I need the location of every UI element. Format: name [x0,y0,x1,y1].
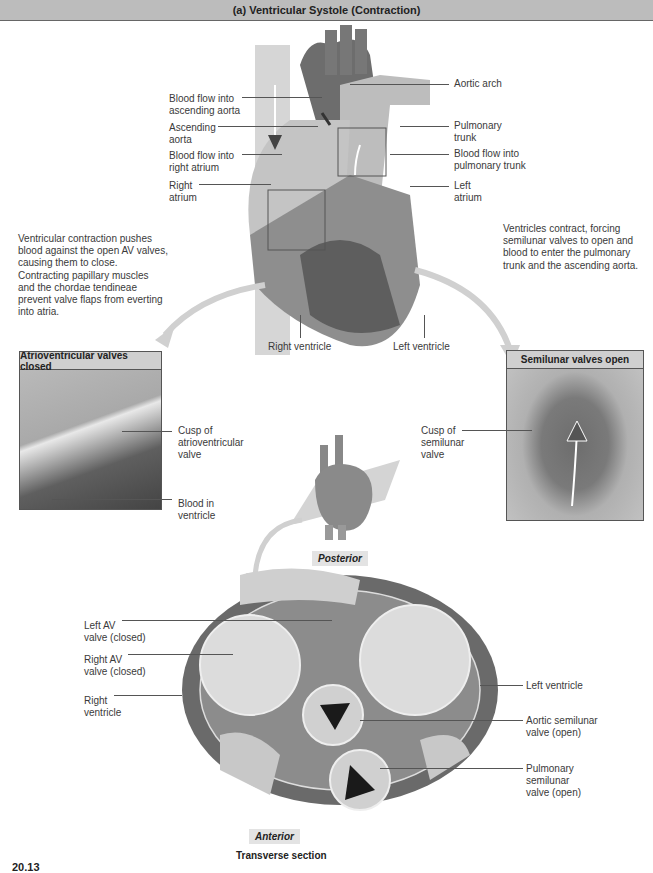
posterior-tag: Posterior [312,551,368,566]
leader-line [480,685,523,686]
leader-line [410,186,449,187]
leader-line [462,430,532,431]
label-aortic-arch: Aortic arch [454,78,502,90]
anterior-tag: Anterior [249,829,300,844]
leader-line [242,154,282,155]
label-left-atrium: Left atrium [454,180,482,204]
leader-line [122,431,172,432]
label-aortic-semilunar-valve: Aortic semilunar valve (open) [526,715,598,739]
label-blood-flow-pulmonary-trunk: Blood flow into pulmonary trunk [454,148,526,172]
leader-line [424,315,425,338]
leader-line [242,97,322,98]
leader-line [360,720,523,721]
label-right-av-valve: Right AV valve (closed) [84,654,146,678]
leader-line [114,695,182,696]
label-right-ventricle-section: Right ventricle [84,695,121,719]
label-right-ventricle: Right ventricle [268,341,331,353]
label-blood-flow-right-atrium: Blood flow into right atrium [169,150,234,174]
label-right-atrium: Right atrium [169,180,197,204]
label-left-ventricle: Left ventricle [393,341,450,353]
av-inset-title: Atrioventricular valves closed [20,352,161,370]
label-pulmonary-semilunar-valve: Pulmonary semilunar valve (open) [526,763,581,799]
leader-line [52,499,172,500]
transverse-section-illustration [180,565,500,830]
leader-line [199,184,271,185]
section-caption: Transverse section [236,850,327,861]
label-left-ventricle-section: Left ventricle [526,680,583,692]
figure-number: 20.13 [12,861,40,873]
leader-line [218,126,318,127]
description-right: Ventricles contract, forcing semilunar v… [503,223,653,272]
label-blood-in-ventricle: Blood in ventricle [178,498,215,522]
label-left-av-valve: Left AV valve (closed) [84,620,146,644]
figure-header: (a) Ventricular Systole (Contraction) [0,0,653,21]
label-blood-flow-ascending-aorta: Blood flow into ascending aorta [169,93,240,117]
leader-line [400,126,449,127]
blood-flow-arrow-icon [557,411,597,511]
semilunar-inset-title: Semilunar valves open [507,351,643,369]
arrow-to-av-inset-icon [140,280,270,350]
leader-line [128,654,233,655]
leader-line [350,84,449,85]
leader-line [122,620,332,621]
leader-line [380,768,523,769]
label-pulmonary-trunk: Pulmonary trunk [454,120,502,144]
label-ascending-aorta: Ascending aorta [169,122,216,146]
semilunar-valves-inset: Semilunar valves open [506,350,644,521]
label-cusp-semilunar-valve: Cusp of semilunar valve [421,425,464,461]
leader-line [390,154,449,155]
label-cusp-av-valve: Cusp of atrioventricular valve [178,425,244,461]
arrow-to-semilunar-inset-icon [410,260,520,370]
leader-line [300,315,301,338]
